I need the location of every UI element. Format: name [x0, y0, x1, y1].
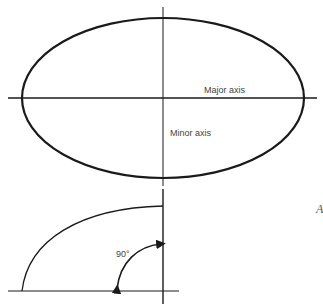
quarter-arc: [22, 206, 163, 291]
edge-letter: A: [315, 202, 323, 216]
major-axis-label: Major axis: [204, 85, 246, 95]
quarter-figure: 90°: [8, 189, 179, 304]
angle-label: 90°: [116, 249, 130, 259]
ellipse-figure: Major axis Minor axis: [8, 7, 317, 186]
ellipse-diagram: Major axis Minor axis 90° A: [0, 0, 323, 305]
minor-axis-label: Minor axis: [170, 128, 212, 138]
